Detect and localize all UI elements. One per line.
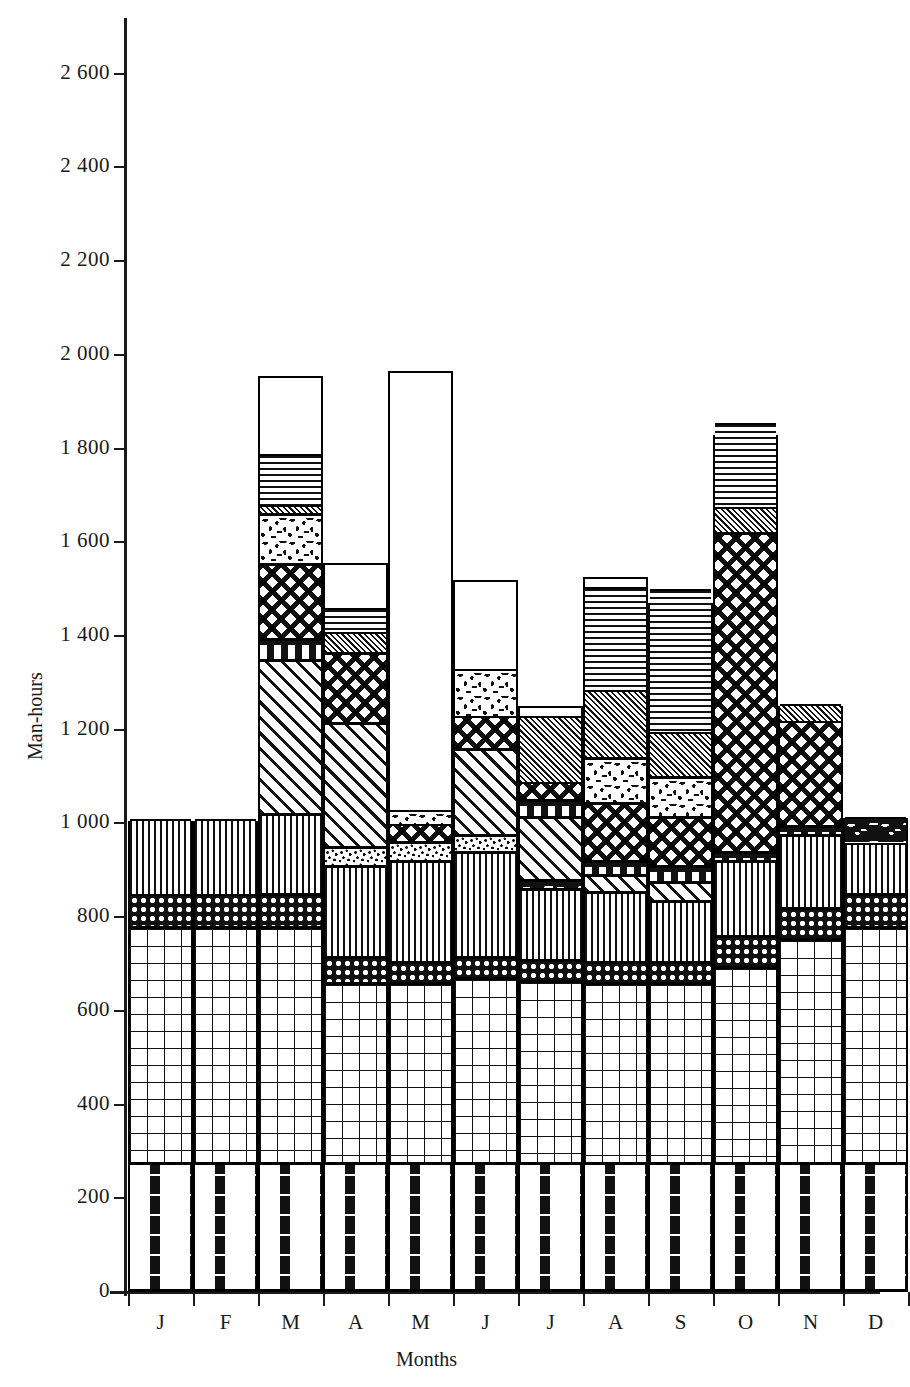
bar-segment-dashed-brick [260,1163,321,1290]
bar-segment-fine-diagonal [520,716,581,782]
y-tick-label: 1 000 [10,809,110,834]
bar-segment-lattice [650,817,711,866]
bar-segment-vertical-lines [195,819,256,894]
bar-segment-vertical-lines [325,866,386,957]
y-tick [114,1291,127,1293]
bar-segment-brick [455,978,516,1163]
bar-segment-dashed-brick [585,1163,646,1290]
y-tick [114,541,127,543]
x-tick-label-september: S [648,1310,713,1335]
x-tick [258,1292,260,1306]
bar-segment-dashed-brick [845,1163,906,1290]
x-tick-label-october: O [713,1310,778,1335]
bar-segment-squiggle-band [520,880,581,889]
bar-segment-speckle-cloud [390,810,451,824]
x-tick-label-april: A [323,1310,388,1335]
x-tick-label-february: F [193,1310,258,1335]
bar-segment-speckle-cloud [650,777,711,817]
y-tick-label: 1 400 [10,622,110,647]
bar-segment-diagonal-hatch [455,749,516,836]
bar-segment-checkerboard-dots [455,957,516,978]
y-tick [114,635,127,637]
bar-december[interactable] [843,818,908,1292]
y-tick [114,916,127,918]
bar-segment-dashed-brick [195,1163,256,1290]
x-tick [128,1292,130,1306]
bar-segment-diagonal-hatch [260,660,321,815]
x-tick-label-may: M [388,1310,453,1335]
bar-january[interactable] [128,821,193,1292]
x-tick-label-december: D [843,1310,908,1335]
bar-segment-lattice [715,533,776,852]
bar-segment-brick [585,983,646,1163]
x-tick [388,1292,390,1306]
y-tick-label: 1 800 [10,435,110,460]
bar-segment-speckle-cloud [585,758,646,803]
bar-segment-checkerboard-dots [325,957,386,983]
bar-may[interactable] [388,371,453,1292]
bar-segment-brick [780,939,841,1164]
bar-segment-brick [195,927,256,1164]
x-tick [323,1292,325,1306]
bar-segment-dashed-brick [650,1163,711,1290]
bar-segment-brick [845,927,906,1164]
bar-segment-checkerboard-dots [715,936,776,966]
bar-segment-checkerboard-dots [130,894,191,927]
bar-october[interactable] [713,435,778,1292]
bar-february[interactable] [193,821,258,1292]
bar-segment-vertical-lines [455,852,516,957]
bar-july[interactable] [518,706,583,1292]
y-tick-label: 400 [10,1091,110,1116]
bar-segment-checkerboard-dots [780,908,841,938]
bar-november[interactable] [778,706,843,1292]
x-tick-label-august: A [583,1310,648,1335]
bar-segment-lattice [520,782,581,801]
bar-segment-fine-diagonal [325,632,386,653]
bar-april[interactable] [323,563,388,1292]
bar-segment-lattice [455,716,516,749]
bar-segment-horizontal-lines [715,423,776,507]
bar-segment-stipple-band [390,842,451,861]
bar-june[interactable] [453,580,518,1292]
x-tick [713,1292,715,1306]
bar-september[interactable] [648,603,713,1292]
bar-segment-brick [650,983,711,1163]
bar-segment-diagonal-hatch [585,875,646,891]
x-tick-label-january: J [128,1310,193,1335]
bar-segment-box-band [520,800,581,816]
bar-segment-brick [325,983,386,1163]
bar-segment-dashed-brick [715,1163,776,1290]
y-tick-label: 2 400 [10,153,110,178]
bar-segment-dashed-brick [780,1163,841,1290]
bar-segment-dashed-brick [390,1163,451,1290]
bar-segment-checkerboard-dots [650,962,711,983]
bar-segment-lattice [260,564,321,639]
y-tick [114,822,127,824]
bar-segment-checkerboard-dots [195,894,256,927]
bar-segment-checkerboard-dots [845,894,906,927]
x-tick [648,1292,650,1306]
bar-segment-fine-diagonal [260,505,321,514]
bar-segment-dashed-brick [520,1163,581,1290]
y-tick [114,729,127,731]
bar-segment-checkerboard-dots [390,962,451,983]
bar-segment-brick [520,981,581,1164]
bar-segment-fine-diagonal [650,732,711,777]
bar-segment-checkerboard-dots [585,962,646,983]
y-tick-label: 2 000 [10,341,110,366]
bar-august[interactable] [583,577,648,1292]
bar-segment-fine-diagonal [585,690,646,758]
bar-segment-speckle-cloud [455,669,516,716]
y-tick-label: 600 [10,997,110,1022]
x-axis-title: Months [396,1348,457,1371]
bar-segment-dashed-brick [325,1163,386,1290]
y-tick-label: 2 600 [10,60,110,85]
bar-segment-checkerboard-dots [260,894,321,927]
bar-segment-diagonal-hatch [520,817,581,880]
bar-march[interactable] [258,376,323,1292]
x-tick-label-november: N [778,1310,843,1335]
bar-segment-fine-diagonal [715,507,776,533]
y-tick-label: 0 [10,1278,110,1303]
bar-segment-stipple-band [325,847,386,866]
